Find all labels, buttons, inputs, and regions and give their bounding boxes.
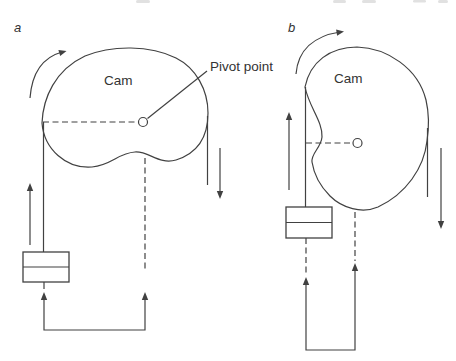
pivot-point-label: Pivot point (210, 59, 273, 74)
crop-artifact (362, 0, 376, 3)
cam-outline (42, 48, 208, 167)
crop-artifact (136, 0, 150, 3)
return-path-line (44, 299, 145, 330)
crop-artifact (413, 0, 426, 3)
panel-b-label: b (288, 20, 295, 35)
panel-b: b Cam (286, 20, 444, 350)
rise-arrowhead (286, 112, 292, 120)
fall-arrowhead (217, 191, 223, 199)
panel-a: a Cam Pivot point (14, 20, 273, 330)
pivot-point-marker (353, 139, 362, 148)
crop-artifact (438, 0, 448, 3)
rotation-arrowhead (336, 30, 344, 36)
cropped-text-artifacts (136, 0, 448, 3)
cam-outline (305, 47, 428, 210)
pivot-leader-line (148, 71, 208, 119)
cam-label: Cam (334, 71, 363, 86)
return-left-arrowhead (41, 292, 47, 300)
cam-label: Cam (104, 73, 133, 88)
cam-rotation-figure: a Cam Pivot point (0, 0, 456, 361)
figure-canvas: a Cam Pivot point (0, 0, 456, 361)
fall-arrowhead (438, 221, 444, 229)
pivot-point-marker (139, 118, 148, 127)
return-path-line (306, 270, 355, 350)
return-left-arrowhead (303, 277, 309, 285)
return-right-arrowhead (352, 263, 358, 271)
return-right-arrowhead (142, 292, 148, 300)
rotation-arrow-curve (296, 32, 340, 74)
crop-artifact (333, 0, 346, 3)
rise-arrowhead (27, 183, 33, 191)
rotation-arrowhead (58, 50, 66, 56)
panel-a-label: a (14, 20, 21, 35)
rotation-arrow-curve (30, 52, 62, 98)
